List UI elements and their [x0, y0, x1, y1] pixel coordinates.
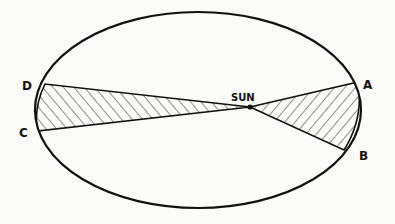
label-d: D [22, 79, 32, 93]
label-c: C [19, 126, 28, 140]
label-sun: SUN [231, 92, 255, 103]
sun-dot [247, 104, 252, 109]
label-b: B [359, 149, 368, 163]
label-a: A [363, 78, 373, 92]
kepler-diagram: SUN A B C D [0, 0, 395, 224]
